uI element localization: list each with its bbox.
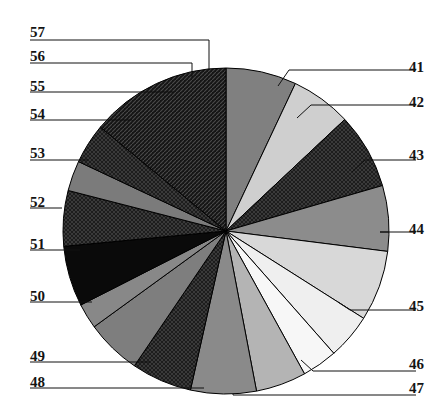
callout-label-48: 48 <box>30 375 45 390</box>
leader-line-41 <box>278 70 416 86</box>
callout-label-43: 43 <box>409 148 424 163</box>
pie-chart-figure: 4142434445464748495051525354555657 <box>0 0 448 418</box>
callout-label-55: 55 <box>30 79 45 94</box>
leader-line-47 <box>233 394 416 395</box>
callout-label-51: 51 <box>30 237 45 252</box>
callout-label-54: 54 <box>30 107 45 122</box>
callout-label-47: 47 <box>409 381 424 396</box>
callout-label-42: 42 <box>409 95 424 110</box>
callout-label-57: 57 <box>30 25 45 40</box>
pie-chart-canvas <box>0 0 448 418</box>
callout-label-44: 44 <box>409 222 424 237</box>
callout-label-41: 41 <box>409 60 424 75</box>
callout-label-46: 46 <box>409 357 424 372</box>
pie-slice-group <box>63 68 389 394</box>
callout-label-45: 45 <box>409 299 424 314</box>
callout-label-53: 53 <box>30 146 45 161</box>
leader-line-57 <box>30 40 209 70</box>
callout-label-56: 56 <box>30 49 45 64</box>
callout-label-50: 50 <box>30 289 45 304</box>
callout-label-49: 49 <box>30 349 45 364</box>
leader-line-56 <box>30 63 192 78</box>
callout-label-52: 52 <box>30 195 45 210</box>
